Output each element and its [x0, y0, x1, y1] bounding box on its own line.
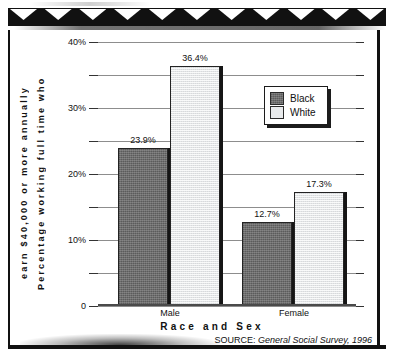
axis-tick-mark	[89, 306, 98, 307]
bar-black-male	[118, 148, 168, 306]
source-note: SOURCE: General Social Survey, 1996	[215, 335, 372, 345]
axis-tick-mark	[355, 240, 364, 241]
axis-tick-mark	[355, 306, 364, 307]
bar-white-male	[170, 66, 220, 306]
axis-tick-mark	[89, 273, 98, 274]
axis-tick-mark	[89, 207, 98, 208]
triangle-notch-icon	[322, 9, 349, 20]
decorative-top-band	[8, 8, 386, 26]
chart-figure: Percentage working full time who earn $4…	[0, 0, 394, 360]
legend-item-white: White	[270, 106, 322, 119]
triangle-notch-icon	[253, 9, 280, 20]
source-prefix: SOURCE:	[215, 335, 259, 345]
legend-swatch-white	[270, 106, 284, 119]
axis-tick-mark	[355, 42, 364, 43]
triangle-notch-icon	[10, 9, 37, 20]
legend-item-black: Black	[270, 92, 322, 105]
legend-label: White	[290, 107, 316, 118]
axis-tick-mark	[355, 75, 364, 76]
bar-series-container: 23.9%36.4%12.7%17.3%	[98, 42, 356, 306]
x-axis-category-label: Male	[160, 308, 180, 318]
axis-tick-mark	[89, 108, 98, 109]
y-axis-tick-label: 30%	[68, 103, 86, 113]
axis-tick-mark	[355, 207, 364, 208]
triangle-notch-icon	[149, 9, 176, 20]
gridline	[98, 306, 356, 307]
bar-value-label: 36.4%	[182, 53, 208, 63]
triangle-row	[8, 9, 386, 23]
y-axis-ticks-right	[355, 42, 364, 306]
axis-tick-mark	[355, 174, 364, 175]
legend-swatch-black	[270, 92, 284, 105]
x-axis-baseline	[98, 304, 356, 306]
y-axis-tick-label: 0	[81, 301, 86, 311]
triangle-notch-icon	[288, 9, 315, 20]
y-axis-tick-label: 20%	[68, 169, 86, 179]
y-axis-tick-label: 40%	[68, 37, 86, 47]
legend-label: Black	[290, 93, 314, 104]
triangle-notch-icon	[218, 9, 245, 20]
y-axis-ticks-left	[89, 42, 98, 306]
frame-border-right	[377, 30, 380, 345]
frame-border-bottom	[8, 345, 386, 349]
bar-value-label: 23.9%	[130, 135, 156, 145]
bar-black-female	[242, 222, 292, 306]
axis-tick-mark	[89, 75, 98, 76]
y-axis-title: Percentage working full time who earn $4…	[14, 38, 50, 328]
chart-legend: BlackWhite	[264, 86, 328, 125]
triangle-notch-icon	[45, 9, 72, 20]
triangle-notch-icon	[183, 9, 210, 20]
bar-group: 23.9%36.4%	[118, 42, 222, 306]
plot-area: 23.9%36.4%12.7%17.3%	[98, 42, 356, 306]
triangle-notch-icon	[357, 9, 384, 20]
bar-white-female	[294, 192, 344, 306]
band-highlight	[30, 2, 150, 6]
band-shadow	[14, 26, 386, 30]
triangle-notch-icon	[114, 9, 141, 20]
x-axis-title: Race and Sex	[56, 321, 368, 332]
triangle-notch-icon	[79, 9, 106, 20]
y-axis-tick-label: 10%	[68, 235, 86, 245]
axis-tick-mark	[89, 240, 98, 241]
x-axis-category-label: Female	[279, 308, 309, 318]
y-axis-title-line-2: earn $40,000 or more annually	[16, 38, 32, 328]
axis-tick-mark	[355, 108, 364, 109]
axis-tick-mark	[355, 273, 364, 274]
bar-value-label: 12.7%	[254, 209, 280, 219]
axis-tick-mark	[89, 174, 98, 175]
source-name: General Social Survey, 1996	[258, 335, 372, 345]
bar-value-label: 17.3%	[306, 179, 332, 189]
bar-group: 12.7%17.3%	[242, 42, 346, 306]
frame-border-left	[8, 30, 10, 345]
x-axis-category-labels: MaleFemale	[98, 308, 368, 322]
y-axis-tick-labels: 010%20%30%40%	[56, 42, 86, 306]
plot-wrapper: 010%20%30%40% 23.9%36.4%12.7%17.3%	[56, 42, 368, 306]
axis-tick-mark	[89, 141, 98, 142]
axis-tick-mark	[89, 42, 98, 43]
axis-tick-mark	[355, 141, 364, 142]
frame-bottom-shadow	[20, 334, 220, 345]
y-axis-title-line-1: Percentage working full time who	[33, 38, 49, 328]
